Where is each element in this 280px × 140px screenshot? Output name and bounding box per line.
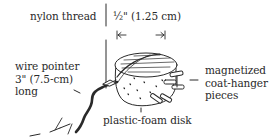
label-pieces-line-1: magnetized [205,64,268,77]
label-pieces-line-3: pieces [205,89,268,102]
label-wire-pointer-line-3: long [15,85,79,98]
label-wire-pointer: wire pointer 3" (7.5-cm) long [15,60,79,98]
dimension-arrows [117,31,165,39]
compass-diagram: nylon thread ½" (1.25 cm) wire pointer 3… [0,0,280,140]
label-pieces-line-2: coat-hanger [205,77,268,90]
label-wire-pointer-line-2: 3" (7.5-cm) [15,73,79,86]
label-foam-disk: plastic-foam disk [103,114,192,127]
label-dimension: ½" (1.25 cm) [113,10,181,23]
label-wire-pointer-line-1: wire pointer [15,60,79,73]
label-nylon-thread: nylon thread [30,10,96,23]
label-magnetized-pieces: magnetized coat-hanger pieces [205,64,268,102]
